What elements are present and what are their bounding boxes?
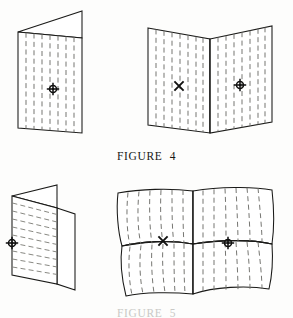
figure-4-caption: FIGURE 4	[0, 150, 293, 162]
figure-4-folded-sheet	[18, 11, 82, 133]
side-flap	[57, 208, 75, 290]
left-panel	[148, 28, 210, 133]
figure-page: .outline { fill: #ffffff; stroke: #1a1a1…	[0, 0, 293, 318]
figure-5-open-sheet	[117, 187, 273, 296]
right-upper-panel	[193, 187, 274, 244]
front-panel	[12, 196, 57, 284]
right-panel	[210, 26, 272, 133]
figure-4-open-sheet	[148, 26, 272, 133]
left-lower-panel	[121, 242, 193, 296]
figure-5-folded-sheet	[6, 185, 75, 290]
figure-5-caption: FIGURE 5	[0, 307, 293, 318]
